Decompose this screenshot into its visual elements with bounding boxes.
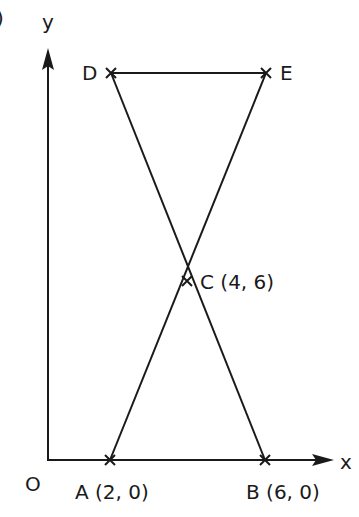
- y-axis: [42, 48, 54, 461]
- x-axis-label: x: [340, 450, 352, 474]
- point-a-label: A (2, 0): [75, 480, 149, 504]
- coordinate-diagram: ) y x O D E C (4, 6) A (2, 0) B (6, 0): [0, 0, 359, 517]
- point-c-marker-icon: [182, 276, 192, 286]
- point-c-label: C (4, 6): [200, 270, 274, 294]
- point-e-label: E: [280, 61, 293, 85]
- x-axis: [47, 454, 334, 466]
- point-d-label: D: [82, 61, 97, 85]
- origin-label: O: [25, 472, 41, 496]
- point-b-label: B (6, 0): [246, 480, 320, 504]
- part-marker: ): [0, 6, 4, 30]
- y-axis-label: y: [42, 10, 54, 34]
